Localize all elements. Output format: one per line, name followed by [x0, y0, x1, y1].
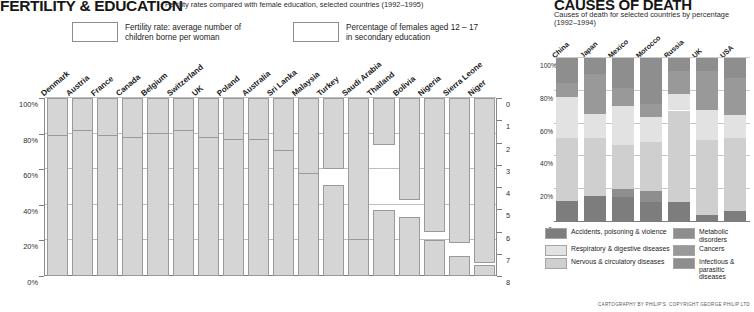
- causes-of-death-segment: [584, 114, 606, 139]
- left-chart-bar-group: [474, 98, 495, 276]
- fertility-bar: [474, 98, 495, 263]
- left-chart-bar-group: [223, 98, 244, 276]
- causes-of-death-segment: [696, 215, 718, 222]
- right-axis-tick-mark: [497, 187, 502, 188]
- left-chart-bar-group: [348, 98, 369, 276]
- causes-of-death-segment: [584, 58, 606, 74]
- right-axis-tick-mark: [497, 254, 502, 255]
- causes-of-death-segment: [724, 211, 746, 222]
- legend-label-accidents-poisoning-violence: Accidents, poisoning & violence: [571, 228, 667, 236]
- right-chart-category-label: Morocco: [634, 33, 662, 60]
- left-chart-bar-group: [248, 98, 269, 276]
- legend-row: Respiratory & digestive diseasesCancers: [545, 245, 754, 256]
- causes-of-death-segment: [556, 58, 578, 83]
- causes-of-death-panel: CAUSES OF DEATH Causes of death for sele…: [540, 0, 754, 312]
- left-chart-category-label: Nigeria: [416, 74, 443, 98]
- left-chart-bar-group: [173, 98, 194, 276]
- fertility-bar: [147, 98, 168, 134]
- fertility-bar: [273, 98, 294, 151]
- right-axis-tick-label: 7: [497, 249, 510, 267]
- right-axis-tick-label: 5: [497, 204, 510, 222]
- left-axis-tick-label: 100%: [0, 93, 44, 111]
- education-bar: [273, 144, 294, 276]
- legend-item-respiratory-digestive-diseases: Respiratory & digestive diseases: [545, 245, 673, 256]
- legend-female-secondary-education: Percentage of females aged 12 – 17 in se…: [293, 22, 523, 43]
- causes-of-death-segment: [612, 58, 634, 88]
- left-chart-bar-group: [373, 98, 394, 276]
- right-chart-axis-tick-label: 80%: [540, 87, 554, 105]
- left-axis-tick-label: 20%: [0, 235, 44, 253]
- right-chart-legend: Accidents, poisoning & violenceMetabolic…: [545, 228, 754, 283]
- right-axis-tick-label: 2: [497, 138, 510, 156]
- right-axis-tick-mark: [497, 143, 502, 144]
- left-chart-category-labels: DenmarkAustriaFranceCanadaBelgiumSwitzer…: [44, 56, 496, 98]
- right-axis-tick-label: 4: [497, 182, 510, 200]
- education-bar: [323, 185, 344, 276]
- legend-swatch-cancers: [673, 245, 695, 256]
- left-axis-tick-label: 60%: [0, 164, 44, 182]
- right-chart-y-axis: 100%80%60%40%20%0: [540, 58, 554, 222]
- left-chart-bar-group: [72, 98, 93, 276]
- causes-of-death-bar: [556, 58, 578, 222]
- fertility-education-panel: FERTILITY & EDUCATION Fertility rates co…: [0, 0, 540, 312]
- left-chart-bar-group: [122, 98, 143, 276]
- left-axis-tick-label: 40%: [0, 200, 44, 218]
- right-axis-tick-mark: [497, 232, 502, 233]
- left-chart-y-axis-percentage: 100%80%60%40%20%0%: [0, 98, 44, 276]
- causes-of-death-segment: [556, 97, 578, 138]
- education-bar: [449, 256, 470, 276]
- left-chart-title: FERTILITY & EDUCATION: [0, 0, 183, 15]
- left-chart-category-label: UK: [190, 84, 205, 98]
- legend-label-infectious-parasitic-diseases: Infectious & parasitic diseases: [699, 258, 754, 281]
- causes-of-death-segment: [612, 106, 634, 145]
- causes-of-death-segment: [640, 58, 662, 104]
- left-axis-tick-label: 80%: [0, 129, 44, 147]
- legend-swatch-infectious-parasitic-diseases: [673, 258, 695, 269]
- education-bar: [474, 265, 495, 276]
- left-axis-tick-mark: [39, 276, 44, 277]
- legend-swatch-fertility-rate: [72, 22, 118, 42]
- right-axis-tick-mark: [497, 120, 502, 121]
- legend-label-fertility-rate: Fertility rate: average number of childr…: [125, 22, 241, 43]
- fertility-bar: [399, 98, 420, 200]
- legend-label-female-secondary-education: Percentage of females aged 12 – 17 in se…: [346, 22, 478, 43]
- education-bar: [248, 125, 269, 276]
- right-chart-axis-tick-label: 20%: [540, 185, 554, 203]
- causes-of-death-segment: [668, 94, 690, 110]
- right-axis-tick-mark: [497, 165, 502, 166]
- causes-of-death-segment: [556, 83, 578, 98]
- fertility-bar: [348, 98, 369, 240]
- causes-of-death-segment: [640, 142, 662, 191]
- causes-of-death-segment: [640, 117, 662, 142]
- causes-of-death-segment: [612, 88, 634, 106]
- right-axis-tick-mark: [497, 276, 502, 277]
- causes-of-death-segment: [668, 58, 690, 71]
- causes-of-death-bar: [612, 58, 634, 222]
- causes-of-death-segment: [724, 115, 746, 138]
- causes-of-death-segment: [612, 189, 634, 197]
- left-chart-bar-group: [97, 98, 118, 276]
- right-axis-tick-label: 6: [497, 227, 510, 245]
- causes-of-death-bar: [724, 58, 746, 222]
- fertility-bar: [198, 98, 219, 138]
- legend-swatch-respiratory-digestive-diseases: [545, 245, 567, 256]
- education-bar: [298, 169, 319, 276]
- right-axis-tick-label: 0: [497, 93, 510, 111]
- left-chart-bar-group: [449, 98, 470, 276]
- causes-of-death-segment: [584, 196, 606, 222]
- right-chart-category-labels: ChinaJapanMexicoMoroccoRussiaUKUSA: [554, 26, 744, 60]
- left-axis-tick-label: 0%: [0, 271, 44, 289]
- legend-item-nervous-circulatory-diseases: Nervous & circulatory diseases: [545, 258, 673, 281]
- causes-of-death-bar: [584, 58, 606, 222]
- causes-of-death-bar: [696, 58, 718, 222]
- left-chart-bar-group: [298, 98, 319, 276]
- left-chart-bar-group: [47, 98, 68, 276]
- fertility-bar: [47, 98, 68, 136]
- right-axis-tick-mark: [497, 209, 502, 210]
- left-chart-category-label: Canada: [115, 73, 143, 98]
- legend-swatch-metabolic-disorders: [673, 228, 695, 239]
- legend-swatch-accidents-poisoning-violence: [545, 228, 567, 239]
- fertility-bar: [449, 98, 470, 243]
- causes-of-death-segment: [696, 140, 718, 215]
- right-chart-axis-tick-label: 100%: [540, 54, 554, 72]
